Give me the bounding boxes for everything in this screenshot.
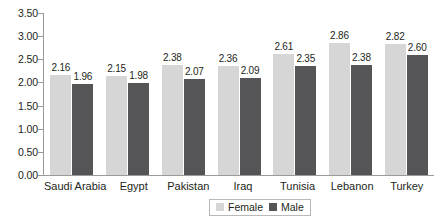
bar-male[interactable] [407,55,428,175]
bar-male[interactable] [240,78,261,175]
bar-groups: 2.161.962.151.982.382.072.362.092.612.35… [44,13,434,175]
bar-group: 2.161.96 [44,13,100,175]
legend-label-male: Male [281,202,304,213]
bar-value-label: 2.36 [219,54,238,64]
bar-female[interactable] [162,65,183,175]
legend-item-female[interactable]: Female [216,202,263,213]
x-axis-line [43,175,434,176]
bar-column: 2.38 [351,13,372,175]
y-axis-tick-label: 3.50 [0,8,38,19]
x-axis-category-label: Egypt [106,180,161,196]
legend-swatch-male-icon [269,203,277,211]
bar-pair: 2.862.38 [323,13,379,175]
bar-group: 2.362.09 [211,13,267,175]
bar-column: 2.60 [407,13,428,175]
bar-male[interactable] [128,83,149,175]
legend-label-female: Female [228,202,263,213]
bar-female[interactable] [329,43,350,175]
bar-group: 2.612.35 [267,13,323,175]
bar-column: 2.61 [273,13,294,175]
bar-column: 2.07 [184,13,205,175]
y-axis-tick-mark [38,152,43,153]
bar-chart: 3.503.002.502.001.501.000.500.00 2.161.9… [0,0,448,223]
bar-column: 2.86 [329,13,350,175]
y-axis-tick-mark [38,175,43,176]
y-axis-tick-label: 3.00 [0,31,38,42]
x-axis-category-label: Pakistan [161,180,216,196]
bar-group: 2.382.07 [155,13,211,175]
bar-pair: 2.151.98 [100,13,156,175]
x-axis-category-label: Turkey [379,180,434,196]
bar-value-label: 1.98 [129,71,148,81]
y-axis-tick-mark [38,36,43,37]
bar-column: 2.82 [385,13,406,175]
x-axis-category-label: Iraq [216,180,271,196]
bar-female[interactable] [273,54,294,175]
bar-value-label: 1.96 [74,72,93,82]
bar-column: 1.96 [72,13,93,175]
bar-column: 2.35 [295,13,316,175]
bar-value-label: 2.38 [352,53,371,63]
bar-column: 2.16 [50,13,71,175]
bar-value-label: 2.38 [163,53,182,63]
bar-female[interactable] [106,76,127,176]
y-axis-tick-label: 1.50 [0,101,38,112]
bar-value-label: 2.61 [274,42,293,52]
bar-pair: 2.382.07 [155,13,211,175]
bar-pair: 2.612.35 [267,13,323,175]
bar-pair: 2.161.96 [44,13,100,175]
bar-female[interactable] [385,44,406,175]
bar-group: 2.151.98 [100,13,156,175]
bar-column: 2.15 [106,13,127,175]
legend-swatch-female-icon [216,203,224,211]
y-axis-tick-label: 2.00 [0,77,38,88]
y-axis-tick-mark [38,129,43,130]
x-axis-category-label: Lebanon [325,180,380,196]
y-axis-tick-label: 0.00 [0,170,38,181]
bar-male[interactable] [295,66,316,175]
bar-column: 2.09 [240,13,261,175]
bar-pair: 2.822.60 [378,13,434,175]
bar-male[interactable] [72,84,93,175]
legend-item-male[interactable]: Male [269,202,304,213]
bar-female[interactable] [218,66,239,175]
x-axis-category-labels: Saudi ArabiaEgyptPakistanIraqTunisiaLeba… [44,180,434,196]
y-axis-tick-label: 2.50 [0,54,38,65]
bar-value-label: 2.86 [330,31,349,41]
bar-pair: 2.362.09 [211,13,267,175]
bar-male[interactable] [351,65,372,175]
bar-value-label: 2.82 [386,32,405,42]
bar-value-label: 2.60 [408,43,427,53]
bar-value-label: 2.07 [185,67,204,77]
bar-value-label: 2.15 [107,64,126,74]
x-axis-category-label: Saudi Arabia [44,180,106,196]
y-axis-tick-mark [38,13,43,14]
bar-male[interactable] [184,79,205,175]
bar-group: 2.822.60 [378,13,434,175]
chart-legend: Female Male [209,199,311,216]
bar-female[interactable] [50,75,71,175]
y-axis-tick-label: 0.50 [0,147,38,158]
y-axis-tick-mark [38,59,43,60]
bar-column: 2.36 [218,13,239,175]
x-axis-category-label: Tunisia [270,180,325,196]
bar-column: 1.98 [128,13,149,175]
bar-value-label: 2.16 [52,63,71,73]
y-axis-tick-mark [38,106,43,107]
y-axis-tick-label: 1.00 [0,124,38,135]
bar-group: 2.862.38 [323,13,379,175]
bar-value-label: 2.35 [296,54,315,64]
bar-column: 2.38 [162,13,183,175]
y-axis-tick-mark [38,82,43,83]
bar-value-label: 2.09 [241,66,260,76]
